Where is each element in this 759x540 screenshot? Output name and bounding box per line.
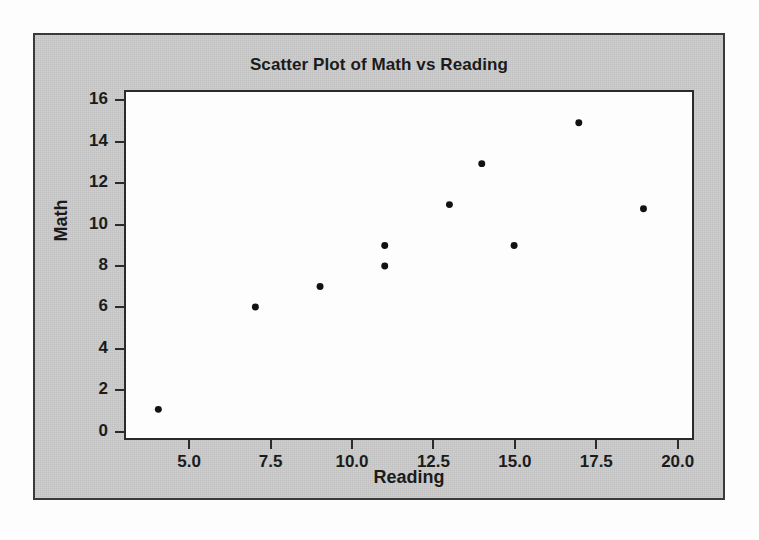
y-tick-mark xyxy=(115,265,124,267)
chart-panel: Scatter Plot of Math vs Reading 5.07.510… xyxy=(33,33,725,500)
data-point xyxy=(317,283,324,290)
y-tick-mark xyxy=(115,224,124,226)
data-point xyxy=(511,242,518,249)
x-axis-title: Reading xyxy=(124,467,694,488)
y-tick-label: 2 xyxy=(68,379,108,399)
y-tick-mark xyxy=(115,99,124,101)
chart-title: Scatter Plot of Math vs Reading xyxy=(35,55,723,75)
data-point xyxy=(446,201,453,208)
x-tick-mark xyxy=(595,440,597,449)
x-tick-mark xyxy=(188,440,190,449)
y-tick-label: 8 xyxy=(68,255,108,275)
y-tick-mark xyxy=(115,389,124,391)
y-tick-label: 4 xyxy=(68,338,108,358)
y-tick-mark xyxy=(115,431,124,433)
plot-area xyxy=(124,90,694,440)
y-tick-mark xyxy=(115,182,124,184)
figure-root: Scatter Plot of Math vs Reading 5.07.510… xyxy=(0,0,759,540)
data-point xyxy=(381,263,388,270)
y-tick-label: 6 xyxy=(68,296,108,316)
x-tick-mark xyxy=(432,440,434,449)
data-point xyxy=(252,304,259,311)
scatter-points-layer xyxy=(126,92,692,438)
data-point xyxy=(640,205,647,212)
data-point xyxy=(381,242,388,249)
y-tick-mark xyxy=(115,348,124,350)
data-point xyxy=(575,119,582,126)
data-point xyxy=(155,406,162,413)
data-point xyxy=(478,160,485,167)
x-tick-mark xyxy=(677,440,679,449)
y-tick-label: 10 xyxy=(68,214,108,234)
y-axis-title: Math xyxy=(51,151,72,291)
y-tick-mark xyxy=(115,306,124,308)
y-tick-label: 14 xyxy=(68,131,108,151)
x-tick-mark xyxy=(351,440,353,449)
x-tick-mark xyxy=(270,440,272,449)
x-tick-mark xyxy=(514,440,516,449)
y-tick-mark xyxy=(115,141,124,143)
y-tick-label: 16 xyxy=(68,89,108,109)
y-tick-label: 12 xyxy=(68,172,108,192)
y-tick-label: 0 xyxy=(68,421,108,441)
